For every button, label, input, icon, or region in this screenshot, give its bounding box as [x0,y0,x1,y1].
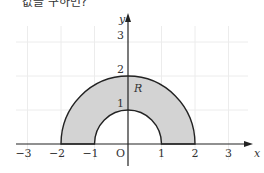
x-tick-label: 3 [225,147,232,160]
y-axis-arrow-icon [125,13,131,22]
origin-label: O [116,147,125,160]
x-tick-label: −1 [82,147,98,160]
region-label: R [133,82,142,95]
y-tick-label: 3 [117,29,124,42]
x-tick-label: 1 [158,147,165,160]
x-tick-label: −2 [49,147,65,160]
y-axis-label: y [118,13,126,26]
region-figure: −3−2−1123123OxyR [0,0,264,173]
x-axis-arrow-icon [244,141,253,147]
y-tick-label: 1 [117,97,124,110]
x-axis-label: x [254,147,261,160]
tick-labels: −3−2−1123123OxyR [15,13,261,160]
x-tick-label: 2 [192,147,199,160]
x-tick-label: −3 [15,147,31,160]
y-tick-label: 2 [117,63,124,76]
